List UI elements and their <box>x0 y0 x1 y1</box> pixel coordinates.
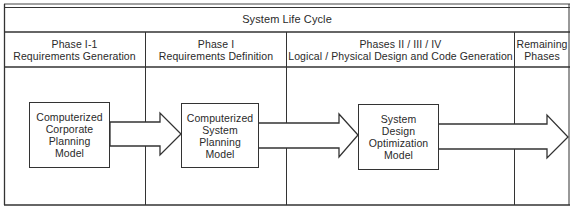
phase-header-4: Remaining Phases <box>515 38 569 62</box>
model-3-line-2: Design <box>369 125 429 137</box>
phase-2-desc: Requirements Definition <box>146 50 286 62</box>
model-3-line-1: System <box>369 113 429 125</box>
phase-header-3: Phases II / III / IV Logical / Physical … <box>287 38 514 62</box>
model-1-line-3: Planning <box>36 135 103 147</box>
phase-header-2: Phase I Requirements Definition <box>146 38 286 62</box>
phase-3-desc: Logical / Physical Design and Code Gener… <box>287 50 514 62</box>
model-2-line-3: Planning <box>187 136 254 148</box>
phase-1-desc: Requirements Generation <box>4 50 145 62</box>
phase-2-name: Phase I <box>146 38 286 50</box>
model-box-design-optimization: System Design Optimization Model <box>358 104 439 170</box>
model-box-system-planning: Computerized System Planning Model <box>181 103 259 168</box>
model-2-line-1: Computerized <box>187 112 254 124</box>
model-2-line-4: Model <box>187 148 254 160</box>
model-1-line-2: Corporate <box>36 123 103 135</box>
arrow-3 <box>438 115 568 158</box>
diagram-title: System Life Cycle <box>4 13 570 25</box>
phase-1-name: Phase I-1 <box>4 38 145 50</box>
phase-4-desc: Phases <box>515 50 569 62</box>
model-1-line-4: Model <box>36 147 103 159</box>
model-3-line-4: Model <box>369 149 429 161</box>
arrow-2 <box>258 114 358 157</box>
phase-header-1: Phase I-1 Requirements Generation <box>4 38 145 62</box>
model-3-line-3: Optimization <box>369 137 429 149</box>
model-2-line-2: System <box>187 124 254 136</box>
phase-4-name: Remaining <box>515 38 569 50</box>
model-box-corporate-planning: Computerized Corporate Planning Model <box>29 102 110 168</box>
phase-3-name: Phases II / III / IV <box>287 38 514 50</box>
model-1-line-1: Computerized <box>36 111 103 123</box>
